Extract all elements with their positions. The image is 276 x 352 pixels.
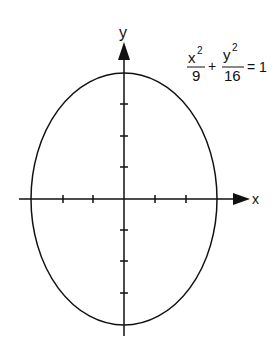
eq-term2-num: y [223,46,231,63]
eq-term1-den: 9 [192,67,200,84]
eq-term2-exp: 2 [232,42,238,53]
y-axis-label: y [119,24,127,41]
eq-term1-exp: 2 [197,45,203,56]
eq-plus: + [208,58,216,74]
eq-term1-num: x [188,49,196,66]
y-axis-arrow-icon [118,42,130,60]
x-axis-arrow-icon [233,193,250,205]
eq-equals: = 1 [247,59,267,75]
eq-term2-den: 16 [224,67,241,84]
equation: x 2 9 + y 2 16 = 1 [187,42,267,84]
x-axis-label: x [252,191,259,207]
ellipse-diagram: x y x 2 9 + y 2 16 = 1 [0,0,276,352]
